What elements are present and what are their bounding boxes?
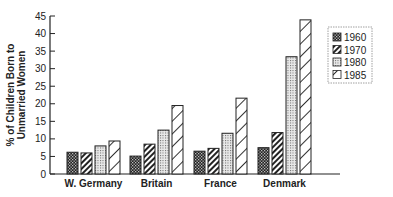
legend-label-1980: 1980 — [344, 57, 367, 68]
bar-britain-1970 — [144, 144, 155, 174]
bar-denmark-1960 — [258, 148, 269, 174]
bar-france-1970 — [208, 148, 219, 174]
x-category-label: W. Germany — [65, 178, 123, 189]
y-tick-label: 45 — [35, 11, 47, 22]
bar-w-germany-1985 — [109, 141, 120, 174]
y-axis-title-line-2: Unmarried Women — [16, 51, 27, 140]
legend-label-1985: 1985 — [344, 70, 367, 81]
x-category-label: Britain — [141, 178, 173, 189]
legend-swatch-1985 — [333, 71, 341, 79]
y-tick-label: 30 — [35, 63, 47, 74]
bar-denmark-1985 — [300, 20, 311, 174]
bar-britain-1980 — [158, 130, 169, 174]
bar-france-1960 — [194, 151, 205, 174]
y-tick-label: 20 — [35, 98, 47, 109]
legend: 1960197019801985 — [328, 27, 372, 83]
y-axis-title: % of Children Born to Unmarried Women — [5, 44, 27, 147]
legend-label-1960: 1960 — [344, 32, 367, 43]
x-category-label: France — [204, 178, 237, 189]
y-tick-label: 35 — [35, 46, 47, 57]
y-tick-label: 15 — [35, 116, 47, 127]
bars — [67, 20, 311, 174]
bar-w-germany-1960 — [67, 152, 78, 174]
legend-swatch-1970 — [333, 46, 341, 54]
y-tick-label: 40 — [35, 28, 47, 39]
bar-britain-1960 — [130, 156, 141, 174]
legend-swatch-1980 — [333, 58, 341, 66]
bar-denmark-1980 — [286, 57, 297, 174]
bar-w-germany-1980 — [95, 146, 106, 174]
bar-france-1980 — [222, 133, 233, 174]
y-axis-ticks: 051015202530354045 — [35, 11, 55, 180]
x-category-label: Denmark — [263, 178, 306, 189]
bar-britain-1985 — [172, 106, 183, 174]
bar-france-1985 — [236, 98, 247, 174]
category-labels: W. GermanyBritainFranceDenmark — [65, 178, 307, 189]
bar-denmark-1970 — [272, 133, 283, 174]
bar-w-germany-1970 — [81, 153, 92, 174]
legend-label-1970: 1970 — [344, 45, 367, 56]
legend-swatch-1960 — [333, 33, 341, 41]
y-tick-label: 0 — [40, 169, 46, 180]
y-tick-label: 10 — [35, 133, 47, 144]
y-axis-title-line-1: % of Children Born to — [5, 44, 16, 147]
y-tick-label: 5 — [40, 151, 46, 162]
bar-chart: % of Children Born to Unmarried Women 05… — [0, 0, 393, 197]
y-tick-label: 25 — [35, 81, 47, 92]
